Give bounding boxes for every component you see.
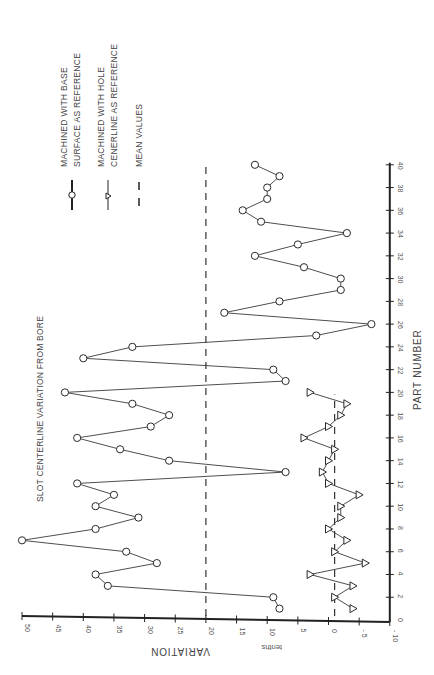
y-tick-label: 45 — [55, 625, 62, 633]
legend-label-hole-2: CENERLINE AS REFERENCE — [109, 44, 119, 167]
data-point-circle — [251, 161, 258, 168]
data-point-triangle — [301, 434, 308, 442]
x-tick-label: 18 — [397, 412, 404, 420]
x-tick-label: 8 — [397, 526, 404, 530]
data-point-circle — [294, 241, 301, 248]
data-point-circle — [221, 309, 228, 316]
data-point-triangle — [350, 582, 357, 590]
data-point-triangle — [338, 514, 345, 522]
data-point-circle — [282, 377, 289, 384]
series-line-base — [22, 165, 371, 609]
legend-label-mean: MEAN VALUES — [134, 104, 144, 167]
data-point-circle — [153, 560, 160, 567]
data-point-circle — [116, 446, 123, 453]
x-tick-label: 6 — [397, 549, 404, 553]
x-tick-label: 26 — [397, 321, 404, 329]
x-tick-label: 16 — [397, 435, 404, 443]
x-tick-label: 36 — [397, 207, 404, 215]
x-tick-label: 32 — [397, 253, 404, 261]
data-point-circle — [264, 195, 271, 202]
x-tick-label: 10 — [397, 503, 404, 511]
data-point-circle — [74, 480, 81, 487]
data-point-circle — [135, 514, 142, 521]
data-point-triangle — [356, 491, 363, 499]
y-tick-label: 15 — [239, 628, 246, 636]
data-point-circle — [313, 332, 320, 339]
data-point-circle — [92, 503, 99, 510]
data-point-triangle — [344, 400, 351, 408]
x-tick-label: 24 — [397, 344, 404, 352]
x-tick-label: 38 — [397, 185, 404, 193]
data-point-circle — [92, 571, 99, 578]
legend-label-base-2: SURFACE AS REFERENCE — [72, 53, 82, 167]
chart: SLOT CENTERLINE VARIATION FROM BORE MACH… — [0, 0, 434, 675]
data-point-circle — [368, 321, 375, 328]
data-point-circle — [276, 298, 283, 305]
data-point-triangle — [319, 468, 326, 476]
y-tick-label: 5 — [300, 629, 307, 633]
data-point-triangle — [338, 411, 345, 419]
y-tick-label: 50 — [24, 624, 31, 632]
data-point-circle — [276, 605, 283, 612]
data-point-circle — [251, 252, 258, 259]
data-point-circle — [270, 366, 277, 373]
data-point-triangle — [338, 502, 345, 510]
data-point-triangle — [307, 388, 314, 396]
data-point-circle — [264, 184, 271, 191]
x-tick-label: 2 — [397, 594, 404, 598]
x-tick-label: 12 — [397, 480, 404, 488]
x-axis-title: PART NUMBER — [412, 330, 423, 410]
data-point-circle — [337, 286, 344, 293]
data-point-circle — [74, 434, 81, 441]
data-point-circle — [147, 423, 154, 430]
data-point-triangle — [307, 570, 314, 578]
y-axis-unit: tenths — [261, 643, 282, 652]
data-point-circle — [92, 525, 99, 532]
circle-marker-icon — [69, 192, 75, 198]
chart-title-text: SLOT CENTERLINE VARIATION FROM BORE — [35, 316, 45, 502]
data-point-circle — [257, 218, 264, 225]
legend-entry-base: MACHINED WITH BASE SURFACE AS REFERENCE — [59, 53, 82, 210]
y-tick-label: 25 — [177, 627, 184, 635]
data-point-circle — [61, 389, 68, 396]
y-tick-label: 0 — [331, 629, 338, 633]
x-tick-label: 14 — [397, 458, 404, 466]
data-point-circle — [276, 173, 283, 180]
x-tick-label: 30 — [397, 276, 404, 284]
legend-label-base-1: MACHINED WITH BASE — [59, 67, 69, 167]
y-tick-label: - 10 — [392, 630, 399, 642]
data-point-triangle — [350, 605, 357, 613]
data-point-triangle — [344, 536, 351, 544]
y-tick-label: 20 — [208, 627, 215, 635]
data-point-circle — [129, 343, 136, 350]
data-point-circle — [18, 537, 25, 544]
data-point-circle — [270, 594, 277, 601]
x-origin-label: 0 — [397, 618, 404, 622]
data-point-triangle — [326, 479, 333, 487]
y-tick-label: - 5 — [361, 630, 368, 638]
y-tick-label: 35 — [116, 626, 123, 634]
data-point-circle — [80, 355, 87, 362]
legend-entry-hole: MACHINED WITH HOLE CENERLINE AS REFERENC… — [96, 44, 119, 210]
data-point-circle — [343, 229, 350, 236]
x-tick-label: 34 — [397, 230, 404, 238]
data-point-circle — [282, 468, 289, 475]
data-point-triangle — [326, 457, 333, 465]
y-tick-label: 40 — [85, 625, 92, 633]
data-point-circle — [123, 548, 130, 555]
legend-entry-mean: MEAN VALUES — [134, 104, 144, 206]
data-point-circle — [166, 412, 173, 419]
x-tick-label: 4 — [397, 571, 404, 575]
data-point-circle — [110, 491, 117, 498]
data-point-circle — [337, 275, 344, 282]
x-tick-label: 40 — [397, 162, 404, 170]
x-tick-label: 28 — [397, 298, 404, 306]
data-point-triangle — [362, 559, 369, 567]
x-tick-label: 20 — [397, 389, 404, 397]
data-point-circle — [104, 582, 111, 589]
data-point-circle — [129, 400, 136, 407]
data-point-circle — [166, 457, 173, 464]
x-tick-label: 22 — [397, 367, 404, 375]
data-point-circle — [300, 264, 307, 271]
y-axis-title: VARIATION — [150, 646, 210, 657]
